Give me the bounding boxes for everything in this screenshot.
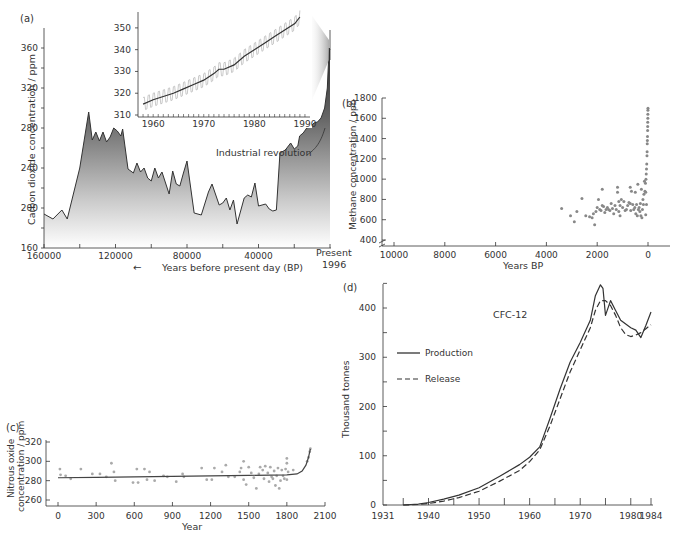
n2o-point <box>266 472 269 475</box>
methane-point <box>646 117 649 120</box>
methane-point <box>617 200 620 203</box>
methane-point <box>597 198 600 201</box>
n2o-point <box>279 479 282 482</box>
n2o-x-axis-label: Year <box>181 521 202 532</box>
n2o-point <box>278 487 281 490</box>
svg-text:600: 600 <box>126 511 143 521</box>
n2o-point <box>210 478 213 481</box>
methane-point <box>645 168 648 171</box>
methane-x-axis-label: Years BP <box>502 260 544 271</box>
methane-point <box>621 206 624 209</box>
methane-point <box>646 135 649 138</box>
n2o-point <box>200 467 203 470</box>
n2o-point <box>250 472 253 475</box>
panel-a-label: (a) <box>20 13 34 24</box>
methane-point <box>645 154 648 157</box>
n2o-point <box>259 466 262 469</box>
n2o-point <box>224 464 227 467</box>
svg-text:360: 360 <box>21 43 38 53</box>
n2o-point <box>247 466 250 469</box>
methane-point <box>611 207 614 210</box>
methane-point <box>633 206 636 209</box>
n2o-point <box>292 469 295 472</box>
methane-point <box>619 204 622 207</box>
n2o-point <box>271 477 274 480</box>
n2o-point <box>132 481 135 484</box>
n2o-point <box>242 460 245 463</box>
n2o-point <box>91 473 94 476</box>
n2o-y-axis-label-line2: concentration / ppm <box>16 421 26 512</box>
n2o-point <box>287 471 290 474</box>
svg-text:1984: 1984 <box>640 511 663 521</box>
svg-text:400: 400 <box>360 235 377 245</box>
n2o-point <box>135 468 138 471</box>
n2o-y-axis-label-line1: Nitrous oxide <box>6 438 16 498</box>
n2o-point <box>153 479 156 482</box>
svg-text:1500: 1500 <box>237 511 260 521</box>
methane-point <box>613 204 616 207</box>
methane-point <box>644 182 647 185</box>
methane-point <box>644 213 647 216</box>
panel-d-label: (d) <box>343 282 357 293</box>
methane-point <box>612 212 615 215</box>
methane-point <box>640 216 643 219</box>
methane-point <box>641 208 644 211</box>
n2o-point <box>263 477 266 480</box>
n2o-point <box>99 473 102 476</box>
n2o-point <box>240 467 243 470</box>
legend-release-label: Release <box>425 374 461 384</box>
methane-point <box>629 209 632 212</box>
methane-point <box>642 203 645 206</box>
n2o-point <box>274 484 277 487</box>
n2o-point <box>283 477 286 480</box>
methane-point <box>593 223 596 226</box>
methane-point <box>584 214 587 217</box>
svg-text:310: 310 <box>114 110 131 120</box>
methane-point <box>594 210 597 213</box>
methane-point <box>639 202 642 205</box>
methane-y-axis-label: Methane concentration / ppb <box>348 99 358 230</box>
n2o-point <box>242 478 245 481</box>
n2o-point <box>79 468 82 471</box>
svg-text:6000: 6000 <box>484 250 507 260</box>
methane-point <box>601 188 604 191</box>
svg-text:160000: 160000 <box>27 251 62 261</box>
cfc-release-line <box>403 301 651 505</box>
svg-text:1200: 1200 <box>199 511 222 521</box>
panel-a-co2: (a) 160200240280320360160000120000800004… <box>20 10 352 273</box>
methane-point <box>634 191 637 194</box>
methane-point <box>629 186 632 189</box>
n2o-point <box>181 473 184 476</box>
svg-text:2000: 2000 <box>586 250 609 260</box>
methane-point <box>638 206 641 209</box>
panel-d-cfc12: (d) 010020030040019311940195019601970198… <box>341 282 663 521</box>
methane-point <box>645 203 648 206</box>
nitrous-oxide-scatter: 26028030032003006009001200150018002100 <box>25 437 337 521</box>
n2o-point <box>137 481 140 484</box>
n2o-point <box>238 471 241 474</box>
svg-text:800: 800 <box>360 194 377 204</box>
co2-present-year: 1996 <box>322 259 346 270</box>
n2o-point <box>277 467 280 470</box>
svg-text:320: 320 <box>114 88 131 98</box>
methane-point <box>573 220 576 223</box>
methane-point <box>646 139 649 142</box>
n2o-point <box>114 479 117 482</box>
svg-text:1960: 1960 <box>142 119 165 129</box>
panel-c-nitrous-oxide: (c) 260280300320030060090012001500180021… <box>6 421 337 532</box>
methane-scatter: 4006008001000120014001600180010000800060… <box>354 93 670 260</box>
n2o-point <box>148 471 151 474</box>
methane-point <box>646 121 649 124</box>
methane-point <box>630 190 633 193</box>
methane-point <box>580 197 583 200</box>
svg-text:260: 260 <box>25 495 42 505</box>
svg-text:2100: 2100 <box>314 511 337 521</box>
methane-point <box>615 208 618 211</box>
svg-text:8000: 8000 <box>433 250 456 260</box>
n2o-point <box>269 466 272 469</box>
svg-text:1960: 1960 <box>518 511 541 521</box>
n2o-point <box>110 462 113 465</box>
methane-point <box>596 206 599 209</box>
methane-point <box>616 191 619 194</box>
n2o-point <box>64 474 67 477</box>
